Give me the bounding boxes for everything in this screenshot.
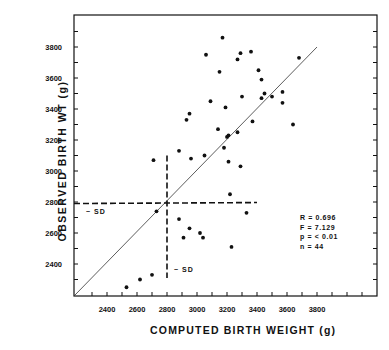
data-point: [177, 149, 181, 153]
data-point: [297, 56, 301, 60]
data-point: [224, 106, 228, 110]
data-point: [125, 285, 129, 289]
stat-n: n = 44: [300, 242, 338, 252]
data-point: [227, 160, 231, 164]
stat-r: R = 0.696: [300, 213, 338, 223]
data-point: [281, 90, 285, 94]
sd-label-horizontal: ~ SD: [86, 208, 106, 215]
x-tick-label: 3800: [309, 305, 326, 314]
mean-horizontal-dashed-line: [74, 203, 257, 204]
data-point: [230, 245, 234, 249]
data-point: [270, 95, 274, 99]
data-point: [203, 154, 207, 158]
data-point: [257, 68, 261, 72]
data-point: [152, 158, 156, 162]
data-point: [239, 51, 243, 55]
data-point: [185, 118, 189, 122]
stats-box: R = 0.696 F = 7.129 p = < 0.01 n = 44: [300, 213, 338, 251]
data-point: [227, 133, 231, 137]
data-point: [216, 127, 220, 131]
data-point: [228, 192, 232, 196]
data-point: [209, 99, 213, 103]
data-point: [150, 273, 154, 277]
data-point: [260, 96, 264, 100]
data-point: [249, 50, 253, 54]
data-point: [218, 70, 222, 74]
x-tick-label: 2400: [99, 305, 116, 314]
data-point: [263, 92, 267, 96]
data-point: [245, 211, 249, 215]
x-tick-label: 2600: [129, 305, 146, 314]
y-tick-label: 3800: [45, 43, 62, 52]
identity-line: [75, 47, 317, 295]
data-point: [189, 157, 193, 161]
data-point: [138, 278, 142, 282]
data-point: [251, 120, 255, 124]
data-point: [222, 146, 226, 150]
stat-p: p = < 0.01: [300, 232, 338, 242]
data-point: [188, 226, 192, 230]
data-point: [201, 236, 205, 240]
x-tick-label: 3000: [189, 305, 206, 314]
stat-f: F = 7.129: [300, 223, 338, 233]
data-point: [177, 217, 181, 221]
x-tick-label: 2800: [159, 305, 176, 314]
data-point: [188, 112, 192, 116]
data-point: [198, 231, 202, 235]
x-tick-label: 3200: [219, 305, 236, 314]
data-point: [239, 164, 243, 168]
data-point: [291, 123, 295, 127]
data-point: [182, 236, 186, 240]
data-point: [155, 209, 159, 213]
plot-frame: [74, 15, 377, 296]
x-axis-label: COMPUTED BIRTH WEIGHT (g): [150, 324, 336, 336]
data-point: [281, 101, 285, 105]
data-point: [236, 58, 240, 62]
data-point: [221, 36, 225, 40]
data-point: [236, 130, 240, 134]
x-tick-label: 3600: [279, 305, 296, 314]
sd-label-vertical: ~ SD: [174, 266, 194, 273]
y-tick-label: 2400: [45, 260, 62, 269]
data-point: [260, 78, 264, 82]
x-tick-label: 3400: [249, 305, 266, 314]
data-point: [204, 53, 208, 57]
data-point: [240, 95, 244, 99]
y-axis-label: OBSERVED BIRTH WT (g): [56, 61, 68, 261]
